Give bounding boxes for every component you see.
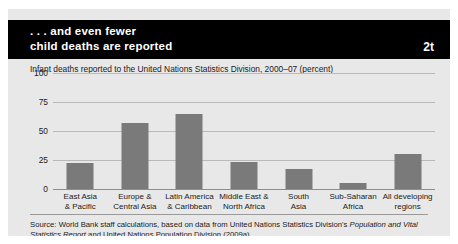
category-label-line: Sub-Saharan: [326, 192, 380, 202]
bar-4: [230, 162, 257, 189]
figure-header: . . . and even fewer child deaths are re…: [8, 20, 450, 59]
source-publication-title: Population and Vital Statistics Report: [30, 220, 418, 236]
category-label-line: Africa: [326, 202, 380, 212]
bar-slot: [381, 73, 435, 189]
bar-slot: [217, 73, 271, 189]
category-label-line: Middle East &: [217, 192, 271, 202]
category-label-line: Europe &: [108, 192, 162, 202]
bar-2: [121, 123, 148, 189]
bar-series: [53, 73, 435, 189]
y-axis-tick-label: 0: [43, 184, 48, 194]
category-label-line: & Pacific: [53, 202, 107, 212]
figure-number-badge: 2t: [423, 40, 434, 54]
category-label-line: regions: [381, 202, 435, 212]
category-label-line: East Asia: [53, 192, 107, 202]
category-label-line: North Africa: [217, 202, 271, 212]
bar-slot: [326, 73, 380, 189]
y-axis-tick-label: 25: [39, 155, 48, 165]
y-axis-tick-label: 75: [39, 97, 48, 107]
bar-slot: [162, 73, 216, 189]
bar-7: [394, 154, 421, 189]
bar-slot: [108, 73, 162, 189]
category-label-line: All developing: [381, 192, 435, 202]
category-label-5: SouthAsia: [272, 192, 326, 211]
category-label-line: Asia: [272, 202, 326, 212]
bar-5: [285, 169, 312, 189]
bar-slot: [53, 73, 107, 189]
bar-slot: [272, 73, 326, 189]
category-label-6: Sub-SaharanAfrica: [326, 192, 380, 211]
y-axis-tick-label: 100: [34, 68, 48, 78]
category-label-1: East Asia& Pacific: [53, 192, 107, 211]
category-label-4: Middle East &North Africa: [217, 192, 271, 211]
source-divider: [30, 214, 428, 215]
gridline-0: 0: [53, 189, 435, 190]
bar-1: [67, 163, 94, 189]
chart-plot-area: 0255075100: [53, 73, 435, 189]
category-label-line: South: [272, 192, 326, 202]
category-label-7: All developingregions: [381, 192, 435, 211]
header-title-line-2: child deaths are reported: [30, 40, 172, 52]
figure-panel: . . . and even fewer child deaths are re…: [8, 9, 450, 236]
category-label-2: Europe &Central Asia: [108, 192, 162, 211]
category-label-line: & Caribbean: [162, 202, 216, 212]
source-note: Source: World Bank staff calculations, b…: [30, 220, 434, 236]
y-axis-tick-label: 50: [39, 126, 48, 136]
category-label-line: Central Asia: [108, 202, 162, 212]
category-label-line: Latin America: [162, 192, 216, 202]
category-axis-labels: East Asia& PacificEurope &Central AsiaLa…: [53, 192, 435, 211]
bar-6: [340, 183, 367, 189]
header-title-line-1: . . . and even fewer: [30, 25, 136, 37]
category-label-3: Latin America& Caribbean: [162, 192, 216, 211]
bar-3: [176, 114, 203, 189]
